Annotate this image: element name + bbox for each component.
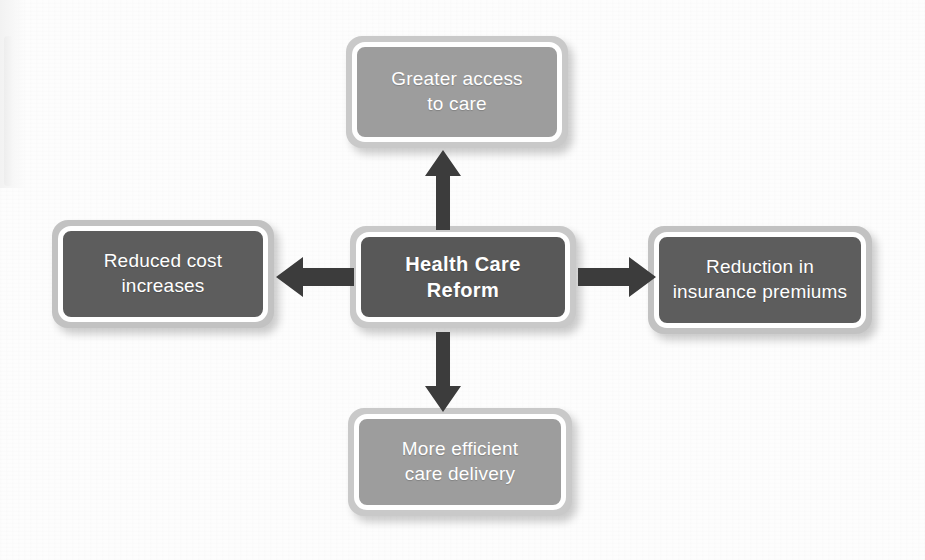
node-reduced-cost-increases-body: Reduced cost increases	[58, 226, 268, 322]
node-more-efficient-care-delivery-line2: care delivery	[405, 463, 515, 484]
node-reduced-cost-increases-line2: increases	[121, 275, 204, 296]
node-greater-access-body: Greater access to care	[352, 42, 562, 142]
arrow-up-icon	[424, 150, 462, 230]
page-edge-artifact	[0, 0, 26, 188]
node-reduction-insurance-premiums-line1: Reduction in	[706, 256, 814, 277]
node-more-efficient-care-delivery-body: More efficient care delivery	[354, 414, 566, 510]
node-health-care-reform-body: Health Care Reform	[356, 232, 570, 322]
arrow-down-icon	[424, 332, 462, 412]
arrow-left-icon	[276, 256, 354, 298]
node-reduction-insurance-premiums-label: Reduction in insurance premiums	[665, 255, 856, 304]
arrow-right-icon	[578, 256, 656, 298]
node-reduced-cost-increases[interactable]: Reduced cost increases	[52, 220, 274, 328]
node-greater-access-label: Greater access to care	[383, 67, 531, 116]
node-more-efficient-care-delivery-label: More efficient care delivery	[394, 437, 527, 486]
node-health-care-reform-label: Health Care Reform	[397, 251, 529, 303]
node-reduced-cost-increases-label: Reduced cost increases	[96, 249, 231, 298]
node-greater-access[interactable]: Greater access to care	[346, 36, 568, 148]
node-reduced-cost-increases-line1: Reduced cost	[104, 250, 223, 271]
node-reduction-insurance-premiums-body: Reduction in insurance premiums	[654, 232, 866, 328]
node-health-care-reform-line2: Reform	[427, 279, 499, 301]
diagram-canvas: Greater access to care Reduced cost incr…	[0, 0, 925, 560]
node-health-care-reform-line1: Health Care	[405, 253, 521, 275]
node-more-efficient-care-delivery-line1: More efficient	[402, 438, 519, 459]
node-reduction-insurance-premiums-line2: insurance premiums	[673, 281, 848, 302]
page-edge-artifact-strip	[4, 36, 13, 186]
node-more-efficient-care-delivery[interactable]: More efficient care delivery	[348, 408, 572, 516]
node-health-care-reform[interactable]: Health Care Reform	[350, 226, 576, 328]
node-greater-access-line1: Greater access	[391, 68, 523, 89]
node-greater-access-line2: to care	[427, 93, 487, 114]
node-reduction-insurance-premiums[interactable]: Reduction in insurance premiums	[648, 226, 872, 334]
